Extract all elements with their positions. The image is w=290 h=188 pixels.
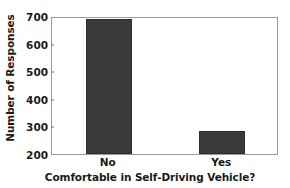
y-tick-label: 400 (18, 95, 48, 106)
y-axis-title: Number of Responses (0, 0, 20, 155)
x-tick-label: Yes (211, 156, 231, 170)
plot-area (52, 18, 277, 154)
y-tick-label: 500 (18, 67, 48, 78)
y-tick-mark (51, 44, 54, 45)
x-axis-tick-labels: NoYes (51, 156, 278, 171)
bar-chart-figure: Number of Responses 200300400500600700 N… (0, 0, 290, 188)
y-axis-title-text: Number of Responses (4, 14, 16, 142)
y-tick-mark (51, 72, 54, 73)
y-tick-label: 600 (18, 39, 48, 50)
bar-yes (199, 131, 245, 154)
y-tick-label: 200 (18, 150, 48, 161)
plot-frame (51, 17, 278, 155)
y-tick-mark (51, 127, 54, 128)
y-axis-tick-labels: 200300400500600700 (18, 17, 48, 155)
y-tick-label: 700 (18, 12, 48, 23)
bar-no (86, 19, 132, 154)
y-tick-mark (51, 99, 54, 100)
x-axis-title: Comfortable in Self-Driving Vehicle? (20, 171, 280, 183)
x-tick-label: No (100, 156, 116, 170)
y-tick-label: 300 (18, 122, 48, 133)
